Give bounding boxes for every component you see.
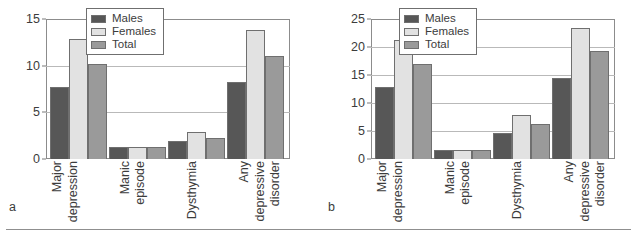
legend-label: Males (112, 13, 143, 25)
legend-item: Males (404, 12, 469, 25)
legend-swatch-icon (404, 28, 419, 36)
x-axis-labels-a: MajordepressionManicepisodeDysthymiaAnyd… (46, 161, 290, 233)
bar (187, 132, 206, 159)
x-axis-labels-b: MajordepressionManicepisodeDysthymiaAnyd… (371, 161, 615, 233)
bar-group (493, 19, 550, 159)
bar-groups-a (46, 19, 290, 159)
legend-swatch-icon (404, 15, 419, 23)
bar-group (552, 19, 609, 159)
panel-letter-b: b (328, 200, 335, 214)
x-axis-label-line: episode (134, 161, 148, 205)
legend-label: Total (112, 39, 136, 51)
x-axis-label-line: Dysthymia (186, 161, 200, 219)
x-axis-label-line: depression (392, 161, 406, 222)
y-tick-label: 10 (351, 97, 365, 110)
legend-item: Males (91, 12, 156, 25)
bar (109, 147, 128, 159)
x-axis-label-line: episode (459, 161, 473, 205)
x-axis-label-line: depressive (579, 161, 593, 221)
legend-item: Females (404, 25, 469, 38)
x-axis-label-line: Dysthymia (511, 161, 525, 219)
panel-letter-a: a (9, 200, 16, 214)
bar (206, 138, 225, 159)
bar (394, 40, 413, 159)
bar (227, 82, 246, 159)
x-axis-label-line: Major (51, 161, 65, 192)
legend-label: Females (425, 26, 469, 38)
x-axis-label-line: Major (376, 161, 390, 192)
panel-b: 0510152025 MajordepressionManicepisodeDy… (319, 0, 637, 237)
x-axis-label: Majordepression (50, 161, 81, 233)
figure-bottom-rule (6, 229, 631, 230)
x-axis-label-line: disorder (594, 161, 608, 206)
y-tick-label: 25 (351, 13, 365, 26)
bar (472, 150, 491, 159)
plot-area-a: 051015 (46, 19, 290, 159)
bar (590, 51, 609, 159)
bar-group (227, 19, 284, 159)
legend-label: Females (112, 26, 156, 38)
bar (531, 124, 550, 159)
bar (147, 147, 166, 159)
bar (128, 147, 147, 159)
x-axis-label: Manicepisode (443, 161, 474, 233)
legend-item: Females (91, 25, 156, 38)
y-tick-label: 0 (358, 153, 365, 166)
x-axis-label: Dysthymia (510, 161, 526, 233)
panel-a: 051015 MajordepressionManicepisodeDysthy… (0, 0, 318, 237)
y-tick-label: 5 (358, 125, 365, 138)
x-axis-label-line: Manic (119, 161, 133, 194)
legend-label: Total (425, 39, 449, 51)
legend-swatch-icon (91, 41, 106, 49)
x-axis-label: Anydepressivedisorder (562, 161, 609, 233)
legend-swatch-icon (404, 41, 419, 49)
x-axis-label-line: Any (563, 161, 577, 183)
legend-a: MalesFemalesTotal (86, 8, 164, 55)
bar (453, 150, 472, 159)
y-tick-label: 15 (26, 13, 40, 26)
bar (168, 141, 187, 159)
bar (512, 115, 531, 159)
bar (265, 56, 284, 159)
y-tick-label: 15 (351, 69, 365, 82)
x-axis-label: Dysthymia (185, 161, 201, 233)
y-tick-label: 10 (26, 59, 40, 72)
x-axis-label-line: disorder (269, 161, 283, 206)
legend-item: Total (91, 38, 156, 51)
bar (571, 28, 590, 159)
bar (493, 133, 512, 159)
y-tick-label: 5 (33, 106, 40, 119)
bar (375, 87, 394, 159)
bar (552, 78, 571, 159)
x-axis-label-line: Manic (444, 161, 458, 194)
bar-group (168, 19, 225, 159)
x-axis-label: Majordepression (375, 161, 406, 233)
bar (50, 87, 69, 159)
legend-swatch-icon (91, 15, 106, 23)
figure-two-panel-bar-charts: 051015 MajordepressionManicepisodeDysthy… (0, 0, 637, 237)
x-axis-label-line: Any (238, 161, 252, 183)
x-axis-label: Anydepressivedisorder (237, 161, 284, 233)
y-tick-label: 20 (351, 41, 365, 54)
y-tick-label: 0 (33, 153, 40, 166)
bar (246, 30, 265, 159)
legend-label: Males (425, 13, 456, 25)
bar (413, 64, 432, 159)
bar (69, 39, 88, 159)
x-axis-label-line: depressive (254, 161, 268, 221)
x-axis-label: Manicepisode (118, 161, 149, 233)
legend-b: MalesFemalesTotal (399, 8, 477, 55)
x-axis-label-line: depression (67, 161, 81, 222)
legend-item: Total (404, 38, 469, 51)
bar (434, 150, 453, 159)
bar (88, 64, 107, 159)
legend-swatch-icon (91, 28, 106, 36)
